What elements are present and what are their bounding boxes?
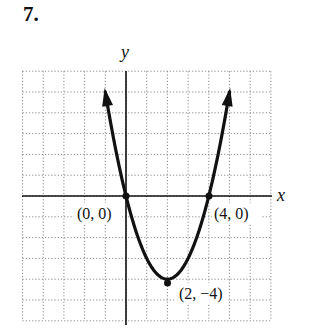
arrowhead-left-icon — [102, 88, 113, 107]
label-vertex: (2, −4) — [179, 285, 223, 303]
point-vertex — [164, 280, 171, 287]
arrowhead-right-icon — [222, 88, 233, 107]
label-origin: (0, 0) — [77, 205, 112, 223]
label-x-intercept: (4, 0) — [214, 205, 249, 223]
point-x-intercept — [206, 193, 213, 200]
x-axis-label: x — [276, 185, 285, 205]
y-axis-label: y — [119, 42, 129, 62]
parabola-graph: x y (0, 0) (4, 0) (2, −4) — [0, 0, 311, 328]
point-origin — [123, 193, 130, 200]
